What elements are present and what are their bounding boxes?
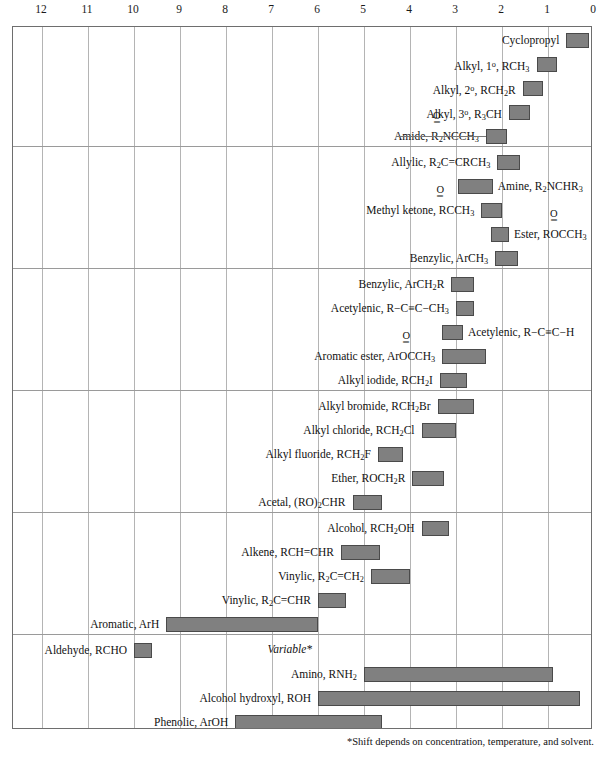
shift-row: Alkyl chloride, RCH2Cl <box>13 419 591 443</box>
shift-range-bar <box>486 129 507 144</box>
shift-row: Alkene, RCH=CHR <box>13 541 591 565</box>
shift-range-bar <box>497 155 520 170</box>
shift-row-label: Methyl ketone, RCCH3 <box>366 201 474 223</box>
shift-row: Cyclopropyl <box>13 29 591 53</box>
shift-row: Vinylic, R2C=CH2 <box>13 565 591 589</box>
shift-row: Benzylic, ArCH2R <box>13 273 591 297</box>
shift-row-label: Alkyl bromide, RCH2Br <box>318 397 430 419</box>
shift-range-bar <box>412 471 444 486</box>
group-divider <box>13 268 591 269</box>
group-divider <box>13 390 591 391</box>
shift-range-bar <box>566 33 589 48</box>
shift-row: Vinylic, R2C=CHR <box>13 589 591 613</box>
footnote: *Shift depends on concentration, tempera… <box>347 736 594 747</box>
shift-range-bar <box>438 399 475 414</box>
shift-row-label: Vinylic, R2C=CH2 <box>278 567 364 589</box>
axis-tick-5: 5 <box>350 3 376 15</box>
shift-range-bar <box>442 325 463 340</box>
shift-row-label: Alkyl fluoride, RCH2F <box>265 445 370 467</box>
shift-range-bar <box>442 349 486 364</box>
shift-row: Ester, ROCCH3 <box>13 223 591 247</box>
axis-tick-1: 1 <box>534 3 560 15</box>
shift-row-label: Amino, RNH2 <box>291 665 357 687</box>
shift-row-label: Alkyl chloride, RCH2Cl <box>303 421 414 443</box>
axis-tick-3: 3 <box>442 3 468 15</box>
shift-row: Acetylenic, R−C≡C−CH3 <box>13 297 591 321</box>
carbonyl-group-icon: O‖ <box>432 185 448 200</box>
plot-area: CyclopropylAlkyl, 1o, RCH3Alkyl, 2o, RCH… <box>12 26 592 729</box>
carbonyl-group-icon: O‖ <box>429 111 445 126</box>
shift-row-label: Aldehyde, RCHO <box>45 641 127 660</box>
shift-row: Alcohol hydroxyl, ROH <box>13 687 591 711</box>
axis-tick-0: 0 <box>580 3 604 15</box>
shift-row-label: Aromatic ester, ArOCCH3 <box>314 347 435 369</box>
shift-range-bar <box>523 81 544 96</box>
shift-range-bar <box>451 277 474 292</box>
shift-range-bar <box>422 423 457 438</box>
shift-range-bar <box>491 227 509 242</box>
shift-row: Allylic, R2C=CRCH3 <box>13 151 591 175</box>
shift-row-label: Alcohol, RCH2OH <box>327 519 414 541</box>
shift-range-bar <box>353 495 383 510</box>
shift-row-label: Aromatic, ArH <box>90 615 159 634</box>
shift-range-bar <box>134 643 152 658</box>
axis-tick-10: 10 <box>120 3 146 15</box>
shift-row: Amino, RNH2 <box>13 663 591 687</box>
shift-row-label: Amine, R2NCHR3 <box>498 177 583 199</box>
shift-row: Methyl ketone, RCCH3 <box>13 199 591 223</box>
shift-row: Acetylenic, R−C≡C−H <box>13 321 591 345</box>
shift-row-label: Vinylic, R2C=CHR <box>222 591 311 613</box>
carbonyl-group-icon: O‖ <box>546 209 562 224</box>
shift-row-label: Acetylenic, R−C≡C−H <box>468 323 574 342</box>
shift-range-bar <box>509 105 530 120</box>
group-divider <box>13 512 591 513</box>
nmr-chemical-shift-chart: 1211109876543210 CyclopropylAlkyl, 1o, R… <box>0 0 604 763</box>
shift-range-bar <box>422 521 450 536</box>
shift-row-label: Alkene, RCH=CHR <box>241 543 334 562</box>
shift-row: Alcohol, RCH2OH <box>13 517 591 541</box>
shift-range-bar <box>371 569 410 584</box>
shift-row: Alkyl bromide, RCH2Br <box>13 395 591 419</box>
shift-range-bar <box>364 667 553 682</box>
shift-range-bar <box>440 373 468 388</box>
variable-note: Variable* <box>267 643 312 655</box>
carbonyl-group-icon: O‖ <box>398 331 414 346</box>
shift-row: Ether, ROCH2R <box>13 467 591 491</box>
axis-tick-8: 8 <box>212 3 238 15</box>
axis-tick-9: 9 <box>166 3 192 15</box>
axis-tick-12: 12 <box>28 3 54 15</box>
shift-row-label: Cyclopropyl <box>502 31 560 50</box>
shift-range-bar <box>456 301 474 316</box>
axis-tick-4: 4 <box>396 3 422 15</box>
shift-row: Alkyl, 1o, RCH3 <box>13 53 591 77</box>
axis-tick-6: 6 <box>304 3 330 15</box>
shift-row: Aromatic ester, ArOCCH3 <box>13 345 591 369</box>
shift-row-label: Phenolic, ArOH <box>154 713 228 729</box>
shift-row-label: Allylic, R2C=CRCH3 <box>391 153 490 175</box>
shift-range-bar <box>235 715 382 729</box>
shift-row-label: Alcohol hydroxyl, ROH <box>200 689 311 708</box>
shift-range-bar <box>318 593 346 608</box>
axis-tick-11: 11 <box>74 3 100 15</box>
shift-range-bar <box>166 617 318 632</box>
label-leader-line <box>396 136 486 137</box>
axis-tick-7: 7 <box>258 3 284 15</box>
shift-range-bar <box>537 57 558 72</box>
shift-row-label: Acetylenic, R−C≡C−CH3 <box>331 299 449 321</box>
shift-row-label: Ether, ROCH2R <box>331 469 405 491</box>
shift-row-label: Benzylic, ArCH2R <box>358 275 444 297</box>
shift-row: Alkyl, 3o, R3CH <box>13 101 591 125</box>
shift-row: Alkyl fluoride, RCH2F <box>13 443 591 467</box>
ppm-axis: 1211109876543210 <box>0 0 604 26</box>
shift-row-label: Ester, ROCCH3 <box>514 225 587 247</box>
shift-range-bar <box>341 545 380 560</box>
shift-row: Alkyl, 2o, RCH2R <box>13 77 591 101</box>
axis-tick-2: 2 <box>488 3 514 15</box>
shift-range-bar <box>378 447 403 462</box>
shift-row: Amine, R2NCHR3 <box>13 175 591 199</box>
shift-row: Phenolic, ArOH <box>13 711 591 729</box>
shift-row-label: Alkyl, 1o, RCH3 <box>454 55 529 79</box>
shift-row-label: Alkyl, 2o, RCH2R <box>433 79 516 103</box>
shift-range-bar <box>458 179 493 194</box>
shift-range-bar <box>318 691 580 706</box>
